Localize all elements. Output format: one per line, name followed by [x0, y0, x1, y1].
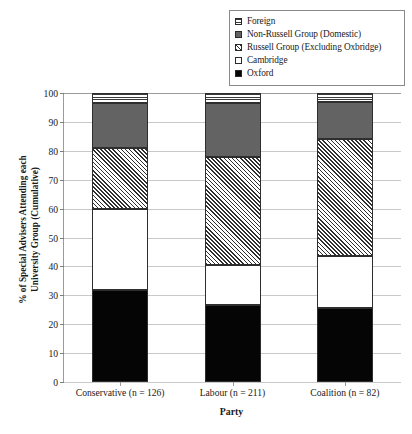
x-axis-title: Party	[63, 406, 400, 417]
bar-segment[interactable]	[317, 256, 373, 308]
bar-segment[interactable]	[92, 290, 148, 382]
bar-segment[interactable]	[92, 103, 148, 148]
x-axis-tick-mark	[233, 382, 234, 386]
bar-segment[interactable]	[317, 308, 373, 382]
y-axis-tick-label: 20	[48, 319, 58, 330]
y-axis-tick-label: 30	[48, 290, 58, 301]
y-axis-tick-label: 70	[48, 174, 58, 185]
y-axis-tick-label: 50	[48, 232, 58, 243]
bar-2[interactable]	[205, 93, 261, 382]
bar-segment[interactable]	[205, 93, 261, 103]
y-axis-tick-mark	[60, 324, 64, 325]
y-axis-tick-mark	[60, 122, 64, 123]
bar-segment[interactable]	[205, 305, 261, 382]
x-axis-tick-mark	[345, 382, 346, 386]
bar-segment[interactable]	[317, 102, 373, 140]
bar-segment[interactable]	[317, 93, 373, 102]
y-axis-tick-label: 10	[48, 348, 58, 359]
y-axis-tick-mark	[60, 151, 64, 152]
x-axis-tick-label: Conservative (n = 126)	[76, 387, 165, 398]
y-axis-title: % of Special Advisers Attending each Uni…	[18, 120, 41, 340]
y-axis-tick-mark	[60, 180, 64, 181]
x-axis-tick-mark	[120, 382, 121, 386]
bar-segment[interactable]	[92, 93, 148, 103]
chart-container: % of Special Advisers Attending each Uni…	[0, 0, 412, 434]
x-axis-tick-label: Coalition (n = 82)	[310, 387, 379, 398]
y-axis-tick-label: 100	[44, 88, 58, 99]
y-axis-tick-mark	[60, 266, 64, 267]
y-axis-tick-label: 90	[48, 116, 58, 127]
bar-segment[interactable]	[205, 103, 261, 156]
y-axis-tick-mark	[60, 93, 64, 94]
x-axis-tick-label: Labour (n = 211)	[200, 387, 266, 398]
bar-segment[interactable]	[92, 148, 148, 209]
y-axis-tick-label: 80	[48, 145, 58, 156]
bar-3[interactable]	[317, 93, 373, 382]
y-axis-title-line-2: University Group (Cumulative)	[29, 167, 39, 292]
y-axis-tick-mark	[60, 209, 64, 210]
bar-1[interactable]	[92, 93, 148, 382]
y-axis-tick-mark	[60, 382, 64, 383]
y-axis-tick-mark	[60, 295, 64, 296]
y-axis-title-line-1: % of Special Advisers Attending each	[18, 155, 28, 304]
bar-segment[interactable]	[205, 265, 261, 305]
bar-segment[interactable]	[92, 209, 148, 290]
bar-segment[interactable]	[205, 157, 261, 265]
y-axis-tick-label: 60	[48, 203, 58, 214]
y-axis-tick-label: 40	[48, 261, 58, 272]
plot-area: 0102030405060708090100 Conservative (n =…	[63, 93, 401, 383]
y-axis-tick-mark	[60, 353, 64, 354]
y-axis-tick-label: 0	[53, 377, 58, 388]
bar-segment[interactable]	[317, 139, 373, 256]
y-axis-tick-mark	[60, 238, 64, 239]
